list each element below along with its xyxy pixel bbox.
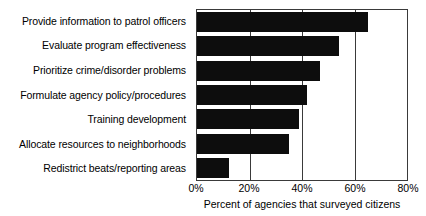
plot-area [196,9,408,181]
bar [197,134,289,154]
bar-row [197,59,407,83]
bar-series [197,10,407,180]
category-label: Prioritize crime/disorder problems [33,65,191,76]
x-tick-label: 80% [397,182,418,195]
category-label: Training development [87,114,191,125]
category-label-row: Training development [0,107,191,132]
x-tick-label: 20% [238,182,259,195]
category-label: Redistrict beats/reporting areas [43,163,191,174]
category-label: Formulate agency policy/procedures [20,90,191,101]
category-axis-labels: Provide information to patrol officers E… [0,9,191,181]
category-label-row: Redistrict beats/reporting areas [0,156,191,181]
category-label-row: Evaluate program effectiveness [0,34,191,59]
x-tick-label: 0% [188,182,203,195]
category-label: Evaluate program effectiveness [42,40,191,51]
bar-row [197,131,407,155]
x-axis-title: Percent of agencies that surveyed citize… [196,198,408,211]
bar [197,85,307,105]
category-label-row: Prioritize crime/disorder problems [0,58,191,83]
bar-row [197,34,407,58]
category-label-row: Provide information to patrol officers [0,9,191,34]
x-tick-label: 60% [344,182,365,195]
category-label: Provide information to patrol officers [22,16,191,27]
bar-row [197,83,407,107]
bar [197,158,229,178]
bar-row [197,10,407,34]
category-label-row: Allocate resources to neighborhoods [0,132,191,157]
bar [197,12,368,32]
bar-row [197,156,407,180]
bar-row [197,107,407,131]
x-axis-ticks: 0% 20% 40% 60% 80% [196,182,408,196]
x-tick-label: 40% [291,182,312,195]
bar [197,61,320,81]
bar [197,109,299,129]
bar-chart: Provide information to patrol officers E… [0,0,426,216]
bar [197,36,339,56]
category-label: Allocate resources to neighborhoods [19,139,191,150]
category-label-row: Formulate agency policy/procedures [0,83,191,108]
